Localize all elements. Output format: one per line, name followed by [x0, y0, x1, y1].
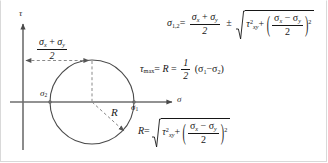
principal-inner-fraction: σx − σy 2	[270, 13, 305, 37]
radius-radical: τ2xy+ ( σx − σy 2 )2	[152, 118, 230, 146]
plus-minus-sign: ±	[224, 17, 234, 28]
mohrs-circle-figure: τ σ σ2 σ1 R σx + σy 2 σ1,2= σx + σy 2 ±	[0, 0, 328, 163]
one-half-fraction: 1 2	[179, 58, 192, 81]
tau-max-equals-2: =	[171, 63, 177, 74]
radius-inner-group: ( σx − σy 2 )2	[183, 121, 228, 145]
sigma2-subscript: 2	[44, 92, 47, 98]
radius-label: R	[111, 107, 118, 118]
radical-sign	[152, 118, 161, 146]
tau-max-subscript: max	[144, 67, 155, 74]
sigma1-label: σ1	[131, 103, 138, 113]
radius-arrow	[92, 102, 124, 131]
center-offset-denominator: 2	[37, 50, 67, 61]
principal-lhs-subscript: 1,2	[172, 22, 180, 29]
center-offset-fraction: σx + σy 2	[35, 37, 69, 61]
principal-radicand: τ2xy+ ( σx − σy 2 )2	[245, 10, 314, 38]
principal-mean-fraction: σx + σy 2	[188, 12, 222, 36]
principal-inner-exponent: 2	[308, 18, 311, 25]
tau-xy-term: τ2xy	[162, 126, 174, 137]
max-shear-equation: τmax= R = 1 2 (σ1−σ2)	[140, 58, 224, 81]
radicand-plus: +	[259, 18, 265, 29]
center-offset-numerator: σx + σy	[37, 37, 67, 50]
principal-equals: =	[180, 17, 186, 28]
radius-inner-exponent: 2	[224, 126, 227, 133]
principal-inner-group: ( σx − σy 2 )2	[267, 13, 312, 37]
principal-stress-equation: σ1,2= σx + σy 2 ± τ2xy+ ( σx − σy 2	[167, 10, 314, 38]
sigma1-subscript: 1	[135, 106, 138, 112]
tau-xy-term: τ2xy	[246, 18, 258, 29]
tau-max-radius: R	[162, 63, 168, 74]
sigma2-label: σ2	[40, 89, 47, 99]
principal-radical: τ2xy+ ( σx − σy 2 )2	[236, 10, 314, 38]
principal-difference-group: (σ1−σ2)	[195, 64, 224, 75]
radius-equation: R= τ2xy+ ( σx − σy 2 )2	[138, 118, 230, 146]
sigma-axis-label: σ	[177, 95, 181, 104]
radical-sign	[236, 10, 245, 38]
radius-equals: =	[144, 125, 150, 136]
radicand-plus: +	[174, 126, 180, 137]
radius-radicand: τ2xy+ ( σx − σy 2 )2	[161, 118, 230, 146]
tau-max-equals-1: =	[154, 63, 160, 74]
tau-axis-label: τ	[19, 9, 22, 18]
radius-inner-fraction: σx − σy 2	[186, 121, 221, 145]
center-offset-frac: σx + σy 2	[35, 37, 69, 61]
